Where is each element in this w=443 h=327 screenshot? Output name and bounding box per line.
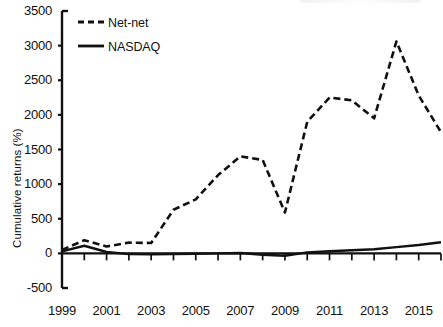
data-series-group [62,41,441,255]
legend-item-nasdaq-label: NASDAQ [108,40,160,54]
legend-swatches [78,22,104,46]
chart-figure: Cumulative returns (%) 35003000250020001… [0,0,443,327]
series-line-net-net [62,41,441,249]
legend-item-net-net-label: Net-net [108,16,148,30]
plot-area [0,0,443,327]
